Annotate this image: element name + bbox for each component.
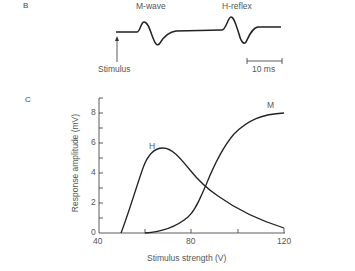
y-tick-label: 6 (91, 137, 96, 147)
h-curve (121, 148, 284, 233)
y-tick-label: 2 (91, 197, 96, 207)
m-series-label: M (267, 100, 274, 110)
y-ticks (99, 98, 103, 218)
y-tick-label: 4 (91, 167, 96, 177)
y-tick-label: 8 (91, 107, 96, 117)
x-tick-label: 120 (277, 236, 291, 246)
x-tick-label: 80 (186, 236, 195, 246)
y-axis-title: Response amplitude (mV) (70, 113, 80, 213)
h-series-label: H (149, 141, 155, 151)
x-axis-title: Stimulus strength (V) (147, 253, 226, 263)
x-tick-label: 40 (93, 236, 102, 246)
response-chart (0, 0, 355, 271)
m-curve (145, 113, 284, 233)
